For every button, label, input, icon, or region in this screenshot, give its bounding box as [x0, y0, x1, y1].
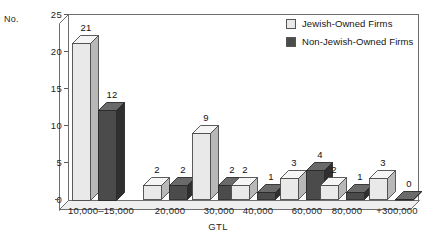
bar-value-jewish-10000-15000: 21: [74, 22, 98, 33]
x-tick-label-40000: 40,000: [234, 205, 282, 216]
bar-jewish-30000: [192, 125, 220, 209]
y-tick-mark-15: [64, 88, 68, 89]
x-tick-label-10000-15000: 10,000–15,000: [57, 205, 145, 216]
chart-legend: Jewish-Owned Firms Non-Jewish-Owned Firm…: [286, 16, 413, 52]
y-tick-label-25: 25: [36, 9, 62, 20]
bar-value-jewish-80000: 2: [322, 164, 346, 175]
legend-label-jewish: Jewish-Owned Firms: [302, 18, 392, 29]
bar-value-jewish-60000: 3: [282, 157, 306, 168]
bar-nonjewish-10000-15000: [98, 102, 126, 209]
bar-value-nonjewish-10000-15000: 12: [100, 89, 124, 100]
plot-depth-left-wall: [59, 14, 69, 210]
y-tick-mark-10: [64, 125, 68, 126]
bar-value-nonjewish-60000: 4: [308, 149, 332, 160]
y-tick-label-20: 20: [36, 46, 62, 57]
bar-jewish-60000: [280, 170, 308, 209]
y-tick-mark-25: [64, 14, 68, 15]
bar-jewish-10000-15000: [72, 35, 100, 209]
y-axis-title: No.: [4, 14, 19, 24]
y-tick-label-5: 5: [36, 157, 62, 168]
legend-swatch-icon-non-jewish: [286, 37, 296, 47]
bar-chart: No. 25 20 15 10 5 0 21: [0, 0, 436, 241]
legend-item-jewish-owned-firms: Jewish-Owned Firms: [286, 16, 413, 31]
bar-value-jewish-30000: 9: [194, 112, 218, 123]
x-axis-title: GTL: [0, 221, 436, 232]
y-tick-label-15: 15: [36, 83, 62, 94]
legend-item-non-jewish-owned-firms: Non-Jewish-Owned Firms: [286, 34, 413, 49]
bar-value-jewish-300000: 3: [371, 157, 395, 168]
bar-value-nonjewish-300000: 0: [397, 178, 421, 189]
y-tick-mark-0: [55, 199, 59, 200]
x-tick-label-80000: 80,000: [323, 205, 371, 216]
y-tick-label-10: 10: [36, 120, 62, 131]
y-tick-mark-5: [64, 162, 68, 163]
x-tick-label-20000: 20,000: [146, 205, 194, 216]
legend-label-non-jewish: Non-Jewish-Owned Firms: [302, 36, 413, 47]
bar-jewish-300000: [369, 170, 397, 209]
x-tick-label-300000: +300,000: [366, 205, 428, 216]
bar-value-jewish-20000: 2: [145, 164, 169, 175]
bar-value-jewish-40000: 2: [233, 164, 257, 175]
legend-swatch-icon-jewish: [286, 19, 296, 29]
y-tick-mark-20: [64, 51, 68, 52]
